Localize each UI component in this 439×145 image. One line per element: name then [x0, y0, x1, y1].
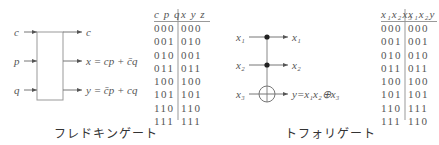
fredkin-output-x: x = cp + c̄q [85, 55, 138, 67]
input-bits: 000 [381, 22, 405, 35]
fredkin-input-p: p [13, 55, 20, 67]
toffoli-output-x2: x₂ [291, 59, 301, 71]
input-bits: 011 [154, 62, 178, 75]
table-row: 110110 [154, 102, 210, 115]
table-row: 100100 [154, 75, 210, 88]
output-bits: 111 [405, 102, 428, 115]
control-dot-icon [264, 34, 269, 39]
table-row: 000000 [381, 22, 437, 35]
input-bits: 100 [154, 75, 178, 88]
toffoli-truth-table: x₁x₂x₃x₁x₂y 0000000010010100100110111001… [381, 8, 437, 128]
output-bits: 110 [405, 115, 429, 128]
fredkin-input-q: q [14, 84, 20, 96]
output-bits: 100 [405, 75, 429, 88]
fredkin-caption: フレドキンゲート [54, 124, 158, 141]
table-row: 111110 [381, 115, 437, 128]
table-row: 001010 [154, 35, 210, 48]
table-row: 010010 [381, 49, 437, 62]
output-bits: 001 [405, 35, 429, 48]
table-row: 101101 [154, 88, 210, 101]
toffoli-output-x1: x₁ [291, 31, 301, 43]
fredkin-input-c: c [14, 26, 19, 38]
table-row: 110111 [381, 102, 437, 115]
output-bits: 101 [405, 88, 429, 101]
output-bits: 011 [178, 62, 202, 75]
input-bits: 010 [381, 49, 405, 62]
toffoli-caption: トフォリゲート [285, 124, 376, 141]
output-bits: 101 [178, 88, 202, 101]
output-bits: 011 [405, 62, 429, 75]
control-dot-icon [264, 62, 269, 67]
table-row: 000000 [154, 22, 210, 35]
table-row: 001001 [381, 35, 437, 48]
toffoli-input-x2: x₂ [235, 59, 245, 71]
output-bits: 100 [178, 75, 202, 88]
input-bits: 010 [154, 49, 178, 62]
output-bits: 010 [405, 49, 429, 62]
table-header: c p qx y z [154, 8, 210, 22]
fredkin-output-c: c [86, 26, 91, 38]
table-row: 011011 [381, 62, 437, 75]
toffoli-input-x1: x₁ [235, 31, 245, 43]
toffoli-output-y: y=x₁x₂⊕x₃ [291, 88, 340, 100]
output-bits: 000 [405, 22, 429, 35]
output-bits: 010 [178, 35, 202, 48]
toffoli-input-x3: x₃ [235, 88, 245, 100]
input-bits: 101 [381, 88, 405, 101]
input-bits: 110 [154, 102, 178, 115]
output-bits: 000 [178, 22, 202, 35]
input-bits: 011 [381, 62, 405, 75]
fredkin-gate: c p q c x = cp + c̄q y = c̄p + cq [13, 26, 138, 100]
fredkin-truth-table: c p qx y z 00000000101001000101101110010… [154, 8, 210, 128]
output-bits: 110 [178, 102, 202, 115]
table-row: 101101 [381, 88, 437, 101]
output-bits: 001 [178, 49, 202, 62]
table-row: 010001 [154, 49, 210, 62]
table-row: 111111 [154, 115, 210, 128]
toffoli-gate: x₁ x₂ x₃ x₁ x₂ y=x₁x₂⊕x₃ [235, 31, 340, 102]
table-header: x₁x₂x₃x₁x₂y [381, 8, 437, 22]
input-bits: 001 [154, 35, 178, 48]
input-bits: 111 [381, 115, 405, 128]
input-bits: 101 [154, 88, 178, 101]
input-bits: 100 [381, 75, 405, 88]
input-bits: 001 [381, 35, 405, 48]
table-row: 011011 [154, 62, 210, 75]
fredkin-output-y: y = c̄p + cq [85, 84, 138, 96]
input-bits: 000 [154, 22, 178, 35]
input-bits: 110 [381, 102, 405, 115]
output-bits: 111 [178, 115, 201, 128]
table-row: 100100 [381, 75, 437, 88]
